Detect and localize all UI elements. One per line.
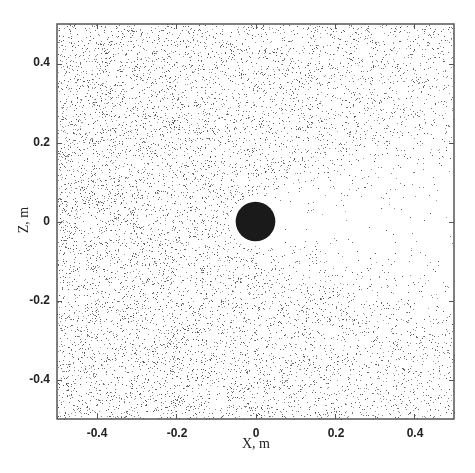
scatter-figure: 0.4 0.2 0 -0.2 -0.4 -0.4 -0.2 0 0.2 0.4 … — [0, 0, 475, 473]
x-tick-label: -0.4 — [77, 426, 117, 440]
x-tick-label: 0.2 — [316, 426, 356, 440]
plot-area — [0, 0, 475, 473]
x-tick-label: 0.4 — [395, 426, 435, 440]
y-axis-label: Z, m — [16, 200, 32, 240]
y-tick-label: -0.4 — [14, 372, 50, 386]
x-axis-label: X, m — [236, 436, 276, 452]
y-tick-label: -0.2 — [14, 293, 50, 307]
x-tick-label: -0.2 — [157, 426, 197, 440]
y-tick-label: 0.4 — [14, 55, 50, 69]
y-tick-label: 0.2 — [14, 135, 50, 149]
